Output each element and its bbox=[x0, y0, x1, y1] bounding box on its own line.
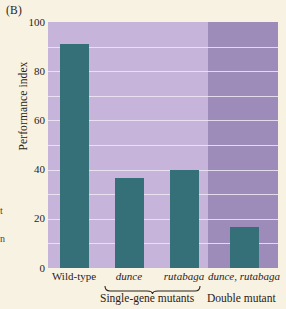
y-tick-label: 40 bbox=[0, 164, 45, 175]
x-axis-category-labels: Wild-typeduncerutabagadunce, rutabaga bbox=[48, 270, 280, 286]
plot-area bbox=[48, 22, 278, 268]
y-axis-tick-labels: 020406080100 bbox=[0, 0, 45, 309]
x-category-label: dunce, rutabaga bbox=[199, 270, 286, 282]
y-tick-label: 20 bbox=[0, 213, 45, 224]
group-label-double-mutant: Double mutant bbox=[207, 292, 276, 304]
y-tick-label: 80 bbox=[0, 66, 45, 77]
bar-dunce bbox=[115, 178, 144, 268]
y-tick-label: 100 bbox=[0, 17, 45, 28]
bar-rutabaga bbox=[170, 170, 199, 268]
bar-dunce-rutabaga bbox=[230, 227, 259, 268]
figure-panel-b: (B) t n Performance index 020406080100 W… bbox=[0, 0, 286, 309]
bar-wild-type bbox=[60, 44, 89, 268]
group-label-single-gene-mutants: Single-gene mutants bbox=[100, 292, 194, 304]
y-tick-label: 60 bbox=[0, 115, 45, 126]
